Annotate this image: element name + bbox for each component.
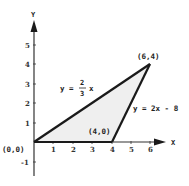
svg-text:x: x <box>89 84 94 93</box>
triangle-diagram: Y X 5 4 3 2 1 -1 1 2 3 4 5 6 (0,0) (4,0)… <box>0 0 189 186</box>
svg-text:2: 2 <box>80 79 84 87</box>
vertex-label-origin: (0,0) <box>2 145 25 154</box>
x-tick-6: 6 <box>148 145 153 154</box>
x-tick-5: 5 <box>129 145 134 154</box>
y-tick-3: 3 <box>25 80 30 89</box>
y-tick-1: 1 <box>25 119 30 128</box>
x-tick-4: 4 <box>110 145 115 154</box>
vertex-label-6-4: (6,4) <box>137 52 160 61</box>
x-tick-1: 1 <box>51 145 56 154</box>
y-tick-5: 5 <box>25 41 30 50</box>
svg-text:3: 3 <box>80 90 84 98</box>
y-tick-4: 4 <box>25 60 30 69</box>
x-tick-3: 3 <box>90 145 95 154</box>
y-tick-2: 2 <box>25 99 30 108</box>
y-axis-arrow-icon <box>31 20 38 32</box>
x-tick-2: 2 <box>71 145 76 154</box>
x-axis-arrow-icon <box>154 139 166 146</box>
y-axis-label: Y <box>31 11 36 19</box>
vertex-label-4-0: (4,0) <box>88 127 111 136</box>
y-tick-neg1: -1 <box>21 158 29 167</box>
x-axis-label: X <box>171 139 176 147</box>
svg-text:y =: y = <box>60 84 74 93</box>
equation-label-2x-minus-8: y = 2x - 8 <box>133 104 179 113</box>
equation-label-two-thirds: y = 2 3 x <box>60 79 94 98</box>
